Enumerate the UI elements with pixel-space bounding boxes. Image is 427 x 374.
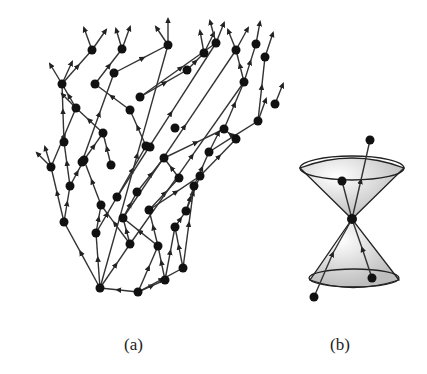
causal-link	[100, 73, 114, 113]
past-cone	[310, 219, 399, 288]
causal-set-element	[107, 161, 116, 170]
causal-link-arrow	[80, 252, 100, 288]
causal-set-element	[118, 45, 127, 54]
causal-set-element	[113, 193, 122, 202]
causal-link-arrow	[57, 192, 64, 222]
causal-set-element	[254, 117, 263, 126]
causal-set-element	[196, 172, 205, 181]
causal-set-element	[240, 78, 249, 87]
causal-set-element	[133, 188, 142, 197]
causal-set-element	[232, 46, 241, 55]
causal-set-element	[171, 223, 180, 232]
causal-set-graph	[37, 19, 283, 297]
causal-set-element	[154, 242, 163, 251]
causal-set-element	[96, 284, 105, 293]
causal-set-element	[66, 182, 75, 191]
causal-link	[64, 222, 80, 252]
causal-set-element	[212, 39, 221, 48]
caption-b: (b)	[330, 335, 350, 355]
causal-set-element	[164, 41, 173, 50]
causal-set-element	[126, 106, 135, 115]
causal-set-element	[160, 154, 169, 163]
causal-set-element	[205, 148, 214, 157]
causal-link-arrow	[114, 58, 144, 73]
causal-link	[185, 50, 236, 126]
event-apex	[347, 214, 357, 224]
causal-set-element	[110, 69, 119, 78]
causal-set-figure	[0, 0, 427, 374]
causal-set-element	[261, 53, 270, 62]
causal-set-element	[190, 182, 199, 191]
future-cone	[300, 158, 404, 219]
causal-set-element	[145, 206, 154, 215]
causal-set-element	[271, 100, 280, 109]
causal-set-element	[179, 264, 188, 273]
causal-set-element	[47, 163, 56, 172]
causal-set-element	[60, 218, 69, 227]
causal-set-element	[72, 104, 81, 113]
event-point	[368, 274, 377, 283]
causal-set-element	[252, 40, 261, 49]
causal-set-element	[88, 46, 97, 55]
causal-set-element	[220, 125, 229, 134]
causal-set-element	[175, 174, 184, 183]
causal-set-element	[171, 124, 180, 133]
causal-set-element	[182, 207, 191, 216]
event-point	[310, 293, 319, 302]
causal-set-element	[232, 135, 241, 144]
causal-set-element	[119, 214, 128, 223]
causal-set-element	[78, 158, 87, 167]
causal-set-element	[99, 129, 108, 138]
causal-set-element	[97, 201, 106, 210]
causal-link-arrow	[130, 155, 193, 244]
causal-set-element	[126, 240, 135, 249]
causal-set-element	[200, 49, 209, 58]
causal-link-arrow	[183, 223, 189, 268]
causal-set-element	[146, 143, 155, 152]
causal-set-element	[60, 138, 69, 147]
causal-set-element	[58, 80, 67, 89]
event-point	[338, 177, 347, 186]
causal-link	[193, 82, 244, 155]
causal-link	[182, 43, 216, 67]
causal-link	[171, 43, 216, 112]
causal-set-element	[92, 229, 101, 238]
causal-set-element	[134, 288, 143, 297]
event-point	[366, 136, 375, 145]
causal-set-element	[136, 93, 145, 102]
causal-set-element	[183, 66, 192, 75]
causal-set-element	[161, 276, 170, 285]
causal-link-arrow	[82, 113, 100, 162]
caption-a: (a)	[124, 335, 143, 355]
light-cone-diagram	[300, 136, 404, 302]
causal-set-element	[91, 80, 100, 89]
